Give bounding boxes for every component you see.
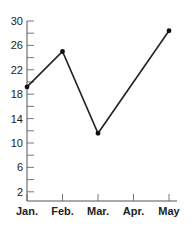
x-axis: Jan.Feb.Mar.Apr.May: [16, 194, 181, 217]
data-point: [167, 28, 172, 33]
data-point: [96, 131, 101, 136]
x-tick-label: Feb.: [51, 205, 74, 217]
data-point: [60, 49, 65, 54]
data-series: [25, 28, 172, 135]
data-point: [25, 84, 30, 89]
x-tick-label: May: [158, 205, 180, 217]
y-tick-label: 22: [11, 64, 23, 76]
y-tick-label: 2: [17, 186, 23, 198]
y-tick-label: 30: [11, 15, 23, 27]
y-tick-label: 18: [11, 88, 23, 100]
y-tick-label: 26: [11, 39, 23, 51]
series-line: [27, 31, 169, 133]
x-tick-label: Jan.: [16, 205, 38, 217]
y-tick-label: 6: [17, 161, 23, 173]
y-tick-label: 14: [11, 113, 23, 125]
x-tick-label: Apr.: [123, 205, 144, 217]
x-tick-label: Mar.: [87, 205, 109, 217]
y-tick-label: 10: [11, 137, 23, 149]
line-chart: 26101418222630 Jan.Feb.Mar.Apr.May: [0, 0, 193, 226]
y-axis: 26101418222630: [11, 15, 34, 201]
